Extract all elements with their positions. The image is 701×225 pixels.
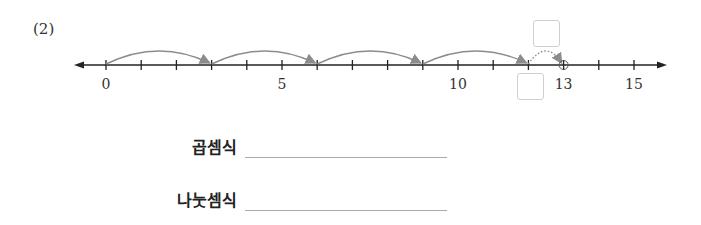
jump-arrow <box>528 51 561 64</box>
multiplication-answer-line[interactable] <box>245 139 447 158</box>
quotient-answer-box[interactable] <box>517 73 544 100</box>
tick-label-13: 13 <box>555 76 573 92</box>
division-answer-line[interactable] <box>245 192 447 211</box>
multiplication-label: 곱셈식 <box>0 134 237 158</box>
multiplication-row: 곱셈식 <box>0 134 447 158</box>
number-line <box>0 0 701 110</box>
jump-arrow <box>317 51 421 64</box>
tick-label-5: 5 <box>278 76 287 92</box>
division-label: 나눗셈식 <box>0 187 237 211</box>
tick-label-10: 10 <box>449 76 467 92</box>
number-line-axis <box>74 62 667 69</box>
right-arrowhead-icon <box>657 62 667 69</box>
jump-arrow <box>212 51 316 64</box>
division-row: 나눗셈식 <box>0 187 447 211</box>
tick-label-15: 15 <box>625 76 643 92</box>
left-arrowhead-icon <box>74 62 84 69</box>
jump-arrow <box>106 51 210 64</box>
jump-arrow <box>423 51 527 64</box>
tick-label-0: 0 <box>102 76 111 92</box>
remainder-answer-box[interactable] <box>533 20 560 47</box>
